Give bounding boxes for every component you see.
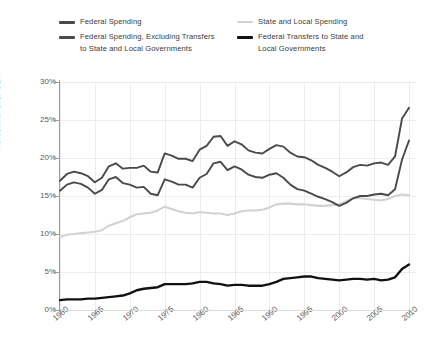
x-axis-tick-mark [95,310,96,315]
x-axis-tick-mark [165,310,166,315]
y-axis-tick-labels: 0%5%10%15%20%25%30% [0,0,56,348]
x-axis-tick-mark [200,310,201,315]
y-axis-tick-label: 20% [4,153,56,162]
legend-label-federal-transfers: Federal Transfers to State and Local Gov… [258,31,364,54]
gridline-horizontal [60,310,416,311]
legend-item-state-and-local-spending: State and Local Spending [237,16,347,28]
x-axis-tick-mark [60,310,61,315]
y-axis-tick-mark [54,234,60,235]
y-axis-tick-label: 10% [4,229,56,238]
legend-label-federal-spending: Federal Spending [80,16,142,28]
y-axis-tick-mark [54,196,60,197]
y-axis-tick-label: 30% [4,77,56,86]
x-axis-tick-mark [304,310,305,315]
series-line [60,141,409,206]
y-axis-tick-label: 25% [4,115,56,124]
x-axis-tick-mark [269,310,270,315]
legend-item-federal-spending: Federal Spending [59,16,142,28]
legend-label-state-and-local-spending: State and Local Spending [258,16,347,28]
y-axis-tick-mark [54,82,60,83]
legend-swatch-federal-spending [59,21,75,24]
y-axis-tick-mark [54,120,60,121]
legend-label-federal-spending-excluding-transfers: Federal Spending, Excluding Transfers to… [80,31,215,54]
x-axis-tick-mark [339,310,340,315]
y-axis-tick-label: 5% [4,267,56,276]
plot-area [60,82,416,310]
legend-swatch-state-and-local-spending [237,21,253,23]
x-axis-tick-mark [235,310,236,315]
legend-swatch-federal-spending-excluding-transfers [59,36,75,39]
series-line [60,108,409,182]
series-container [60,82,416,310]
legend-item-federal-spending-excluding-transfers: Federal Spending, Excluding Transfers to… [59,31,215,54]
chart-figure: Federal Spending Federal Spending, Exclu… [0,0,428,348]
chart-legend: Federal Spending Federal Spending, Exclu… [0,14,428,72]
x-axis-tick-mark [374,310,375,315]
series-line [60,194,409,237]
series-line [60,264,409,300]
x-axis-tick-mark [409,310,410,315]
legend-item-federal-transfers: Federal Transfers to State and Local Gov… [237,31,364,54]
y-axis-tick-label: 15% [4,191,56,200]
y-axis-tick-mark [54,272,60,273]
y-axis-tick-mark [54,158,60,159]
y-axis-tick-label: 0% [4,305,56,314]
x-axis-tick-mark [130,310,131,315]
legend-swatch-federal-transfers [237,36,253,39]
